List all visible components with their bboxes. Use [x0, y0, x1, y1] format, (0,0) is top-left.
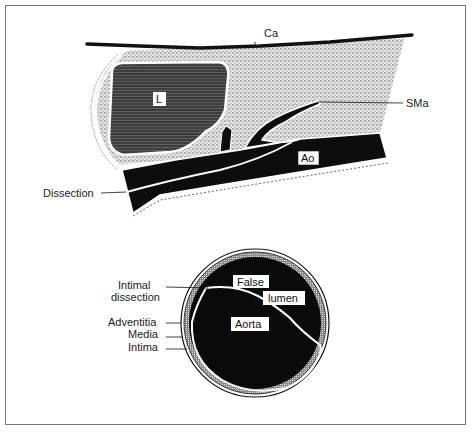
cross-section-diagram: False lumen Aorta Intimal dissection Adv… — [108, 249, 329, 397]
dissection-label: Dissection — [43, 187, 94, 199]
liver-label: L — [156, 93, 162, 105]
intima-label: Intima — [128, 341, 159, 353]
lumen-label: lumen — [268, 292, 298, 304]
false-label: False — [237, 276, 264, 288]
sma-label: SMa — [406, 97, 430, 109]
intimal-dissection-label-1: Intimal — [118, 279, 150, 291]
intimal-dissection-label-2: dissection — [111, 291, 160, 303]
aorta-label-top: Ao — [301, 152, 314, 164]
aorta-label-bottom: Aorta — [235, 318, 262, 330]
anatomy-figure: L Ca Ao SMa Dissection — [0, 0, 474, 432]
dissection-leader — [101, 192, 126, 193]
media-label: Media — [128, 328, 159, 340]
ca-label: Ca — [264, 27, 279, 39]
adventitia-label: Adventitia — [108, 316, 157, 328]
sagittal-diagram: L Ca Ao SMa Dissection — [43, 27, 430, 216]
